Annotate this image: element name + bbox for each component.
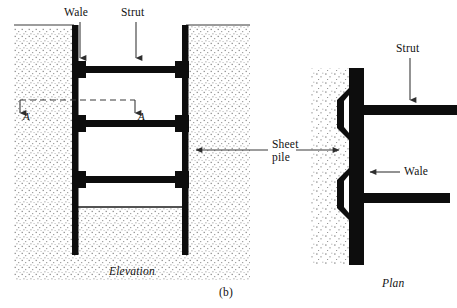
- label-strut-plan: Strut: [396, 42, 419, 55]
- elevation-lower-strut: [72, 171, 189, 188]
- label-wale-elevation: Wale: [64, 6, 88, 19]
- elevation-right-sheet-pile: [182, 25, 189, 255]
- label-section-marker-right: A: [138, 110, 145, 123]
- figure-caption: (b): [219, 286, 233, 299]
- label-strut-elevation: Strut: [121, 6, 144, 19]
- label-view-plan: Plan: [382, 277, 405, 290]
- label-sheet-pile: Sheet pile: [272, 138, 299, 164]
- elevation-left-soil: [14, 25, 74, 280]
- elevation-upper-strut: [72, 61, 189, 78]
- plan-wale: [355, 68, 364, 265]
- figure-drawing-canvas: [0, 0, 457, 308]
- plan-lower-strut: [364, 193, 450, 203]
- label-section-marker-left: A: [23, 110, 30, 123]
- label-wale-plan: Wale: [404, 165, 428, 178]
- plan-view: [296, 58, 457, 265]
- elevation-left-sheet-pile: [72, 25, 79, 255]
- plan-upper-strut: [364, 105, 457, 115]
- elevation-right-soil: [186, 25, 250, 280]
- figure-braced-cut: Wale Strut Sheet pile Strut Wale A A Ele…: [0, 0, 457, 308]
- label-view-elevation: Elevation: [109, 265, 155, 278]
- elevation-middle-strut: [72, 115, 189, 132]
- elevation-view: [14, 22, 268, 280]
